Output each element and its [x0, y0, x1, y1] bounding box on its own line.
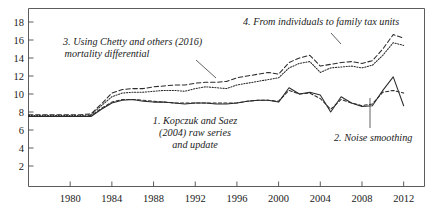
x-tick-label-2004: 2004	[310, 193, 332, 204]
x-tick-label-1988: 1988	[143, 193, 164, 204]
x-tick-label-2008: 2008	[351, 193, 372, 204]
series-line-kopczuk-saez-raw	[29, 77, 404, 117]
y-tick-label-4: 4	[19, 143, 25, 154]
annotation-leader-lines	[196, 33, 370, 128]
y-tick-label-2: 2	[19, 161, 24, 172]
x-tick-label-2000: 2000	[268, 193, 289, 204]
annotation-2-line-1: 2. Noise smoothing	[334, 132, 412, 143]
y-tick-label-18: 18	[14, 17, 25, 28]
y-tick-label-14: 14	[14, 53, 25, 64]
x-tick-label-1980: 1980	[60, 193, 81, 204]
x-tick-label-2012: 2012	[393, 193, 414, 204]
annotation-1-line-2: (2004) raw series	[159, 127, 231, 139]
y-axis-tick-labels: 2 4 6 8 10 12 14 16 18	[14, 17, 25, 172]
line-chart-svg: 2 4 6 8 10 12 14 16 18 19801984198819921…	[0, 0, 434, 214]
annotation-1-line-3: and update	[172, 139, 218, 150]
leader-line-annotation-3	[196, 60, 216, 78]
y-tick-label-10: 10	[14, 89, 25, 100]
annotation-1: 1. Kopczuk and Saez (2004) raw series an…	[153, 115, 237, 150]
annotation-3-line-1: 3. Using Chetty and others (2016)	[62, 36, 203, 48]
annotation-4-line-1: 4. From individuals to family tax units	[243, 16, 399, 27]
annotation-4: 4. From individuals to family tax units	[243, 16, 399, 27]
y-tick-label-6: 6	[19, 125, 24, 136]
y-tick-label-16: 16	[14, 35, 25, 46]
series-line-noise-smoothing	[29, 90, 404, 116]
x-tick-label-1984: 1984	[101, 193, 123, 204]
x-axis-tick-labels: 198019841988199219962000200420082012	[60, 193, 414, 204]
leader-line-annotation-4	[331, 33, 341, 44]
chart-figure: 2 4 6 8 10 12 14 16 18 19801984198819921…	[0, 0, 434, 214]
annotation-1-line-1: 1. Kopczuk and Saez	[153, 115, 237, 126]
y-tick-label-8: 8	[19, 107, 24, 118]
y-axis-ticks	[29, 22, 34, 166]
annotation-3-line-2: mortality differential	[65, 48, 150, 59]
annotation-2: 2. Noise smoothing	[334, 132, 412, 143]
x-axis-ticks	[70, 182, 403, 187]
x-tick-label-1992: 1992	[185, 193, 206, 204]
y-tick-label-12: 12	[14, 71, 25, 82]
annotation-3: 3. Using Chetty and others (2016) mortal…	[62, 36, 203, 59]
x-tick-label-1996: 1996	[226, 193, 247, 204]
